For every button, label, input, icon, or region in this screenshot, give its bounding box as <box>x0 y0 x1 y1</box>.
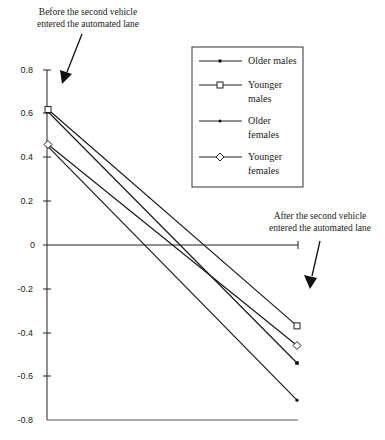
annotation-before-line2: entered the automated lane <box>37 19 139 29</box>
annotation-before-line1: Before the second vehicle <box>39 7 137 17</box>
annotation-after-line1: After the second vehicle <box>274 211 367 221</box>
legend-label: females <box>248 165 279 176</box>
y-tick-label: 0.6 <box>20 108 33 118</box>
open-square-marker-icon <box>217 82 223 88</box>
open-square-marker-icon <box>294 323 300 329</box>
y-tick-label: 0.8 <box>20 65 33 75</box>
y-tick-label: 0.2 <box>20 196 33 206</box>
arrow-after-shaft <box>312 241 320 276</box>
y-tick-label: -0.8 <box>17 415 33 425</box>
legend-label: Younger <box>248 79 283 90</box>
arrow-down-icon <box>304 275 317 289</box>
open-square-marker-icon <box>45 107 51 113</box>
dot-marker-icon <box>219 120 222 123</box>
legend-label: Older <box>248 115 271 126</box>
y-tick-label: -0.4 <box>17 328 33 338</box>
legend-label: males <box>248 93 271 104</box>
y-tick-label: -0.6 <box>17 371 33 381</box>
legend-label: Older males <box>248 55 297 66</box>
zero-line <box>43 241 298 249</box>
y-tick-label: 0.4 <box>20 152 33 162</box>
annotation-after-line2: entered the automated lane <box>269 223 371 233</box>
annotation-after: After the second vehicle entered the aut… <box>269 211 371 289</box>
y-tick-label: -0.2 <box>17 284 33 294</box>
filled-square-marker-icon <box>295 361 299 365</box>
y-tick-label: 0 <box>30 240 35 250</box>
legend-label: Younger <box>248 151 283 162</box>
annotation-before: Before the second vehicle entered the au… <box>37 7 139 84</box>
legend-label: females <box>248 129 279 140</box>
filled-square-marker-icon <box>219 60 222 63</box>
arrow-before-shaft <box>67 34 82 72</box>
line-chart: Before the second vehicle entered the au… <box>0 0 385 440</box>
legend: Older males Younger males Older females … <box>192 47 303 187</box>
arrow-down-left-icon <box>60 70 72 84</box>
dot-marker-icon <box>295 399 298 402</box>
